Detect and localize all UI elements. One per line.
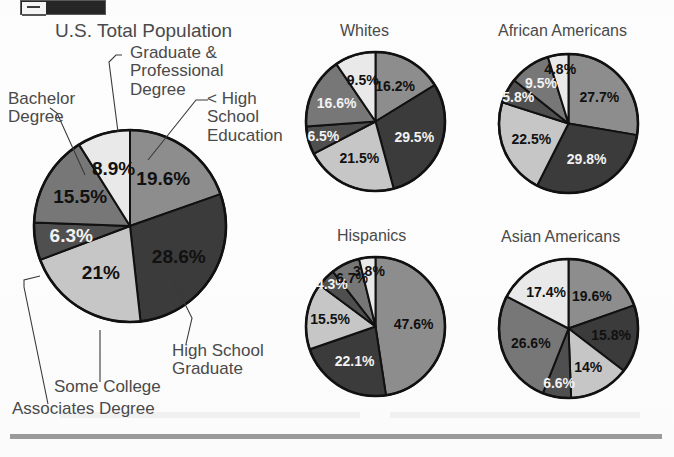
leader-line-graduate <box>109 55 122 132</box>
pie-slice <box>569 54 639 135</box>
pie-african-americans: 27.7%29.8%22.5%5.8%9.5%4.8% <box>497 52 640 195</box>
callout-high-school-graduate: High School Graduate <box>172 342 264 379</box>
callout-bachelor-degree: Bachelor Degree <box>8 90 75 127</box>
chart-title-hispanics: Hispanics <box>337 227 406 245</box>
pie-slice <box>376 257 446 395</box>
callout-less-than-high-school: < High School Education <box>207 90 283 145</box>
chart-title-whites: Whites <box>340 22 389 40</box>
pie-whites: 16.2%29.5%21.5%6.5%16.6%9.5% <box>304 50 447 193</box>
pie-svg <box>497 257 640 400</box>
leader-line-hs-graduate <box>174 282 192 344</box>
leader-line-less-than-hs <box>148 100 208 160</box>
chart-title-asian-americans: Asian Americans <box>501 228 620 246</box>
pie-asian-americans: 19.6%15.8%14%6.6%26.6%17.4% <box>497 257 640 400</box>
pie-chart-african-americans: African Americans 27.7%29.8%22.5%5.8%9.5… <box>470 0 670 215</box>
callout-some-college: Some College <box>54 378 161 396</box>
pie-svg <box>304 50 447 193</box>
chart-title-african-americans: African Americans <box>498 22 627 40</box>
pie-svg <box>304 255 447 398</box>
pie-chart-whites: Whites 16.2%29.5%21.5%6.5%16.6%9.5% <box>292 0 477 215</box>
callout-associates-degree: Associates Degree <box>12 400 155 418</box>
bottom-horizontal-rule <box>10 434 662 439</box>
pie-chart-hispanics: Hispanics 47.6%22.1%15.5%4.3%6.7%3.8% <box>292 215 477 430</box>
pie-hispanics: 47.6%22.1%15.5%4.3%6.7%3.8% <box>304 255 447 398</box>
pie-svg <box>497 52 640 195</box>
leader-line-associates <box>24 276 48 404</box>
pie-chart-asian-americans: Asian Americans 19.6%15.8%14%6.6%26.6%17… <box>470 215 670 430</box>
